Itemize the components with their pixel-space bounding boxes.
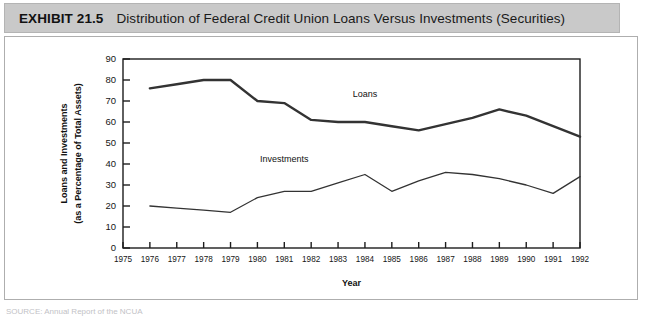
y-tick-label-20: 20 (105, 200, 116, 211)
x-tick-label-1979: 1979 (221, 255, 240, 264)
x-tick-label-1992: 1992 (571, 255, 590, 264)
series-label-investments: Investments (260, 154, 309, 164)
x-tick-label-1985: 1985 (383, 255, 402, 264)
y-axis-title-line1: Loans and Investments (59, 103, 69, 203)
x-tick-label-1981: 1981 (275, 255, 294, 264)
y-axis-title-line2: (as a Percentage of Total Assets) (73, 83, 83, 224)
x-tick-label-1991: 1991 (544, 255, 563, 264)
y-tick-label-0: 0 (111, 242, 116, 253)
x-tick-label-1988: 1988 (463, 255, 482, 264)
x-tick-label-1982: 1982 (302, 255, 321, 264)
x-tick-label-1977: 1977 (168, 255, 187, 264)
series-line-investments (150, 172, 580, 212)
y-tick-label-70: 70 (105, 95, 116, 106)
series-label-loans: Loans (353, 89, 378, 99)
y-tick-label-30: 30 (105, 179, 116, 190)
exhibit-number: EXHIBIT 21.5 (19, 11, 103, 26)
source-note: SOURCE: Annual Report of the NCUA (6, 308, 436, 316)
y-tick-label-80: 80 (105, 74, 116, 85)
exhibit-title: Distribution of Federal Credit Union Loa… (116, 11, 565, 26)
exhibit-header-bar: EXHIBIT 21.5 Distribution of Federal Cre… (4, 3, 620, 33)
y-tick-label-50: 50 (105, 137, 116, 148)
x-tick-label-1980: 1980 (248, 255, 267, 264)
x-tick-label-1989: 1989 (490, 255, 509, 264)
y-tick-label-40: 40 (105, 158, 116, 169)
x-tick-label-1975: 1975 (114, 255, 133, 264)
y-tick-label-60: 60 (105, 116, 116, 127)
x-tick-label-1990: 1990 (517, 255, 536, 264)
chart-frame: 0102030405060708090197519761977197819791… (4, 36, 638, 300)
y-tick-label-90: 90 (105, 53, 116, 64)
line-chart: 0102030405060708090197519761977197819791… (5, 37, 637, 299)
x-tick-label-1978: 1978 (195, 255, 214, 264)
x-tick-label-1983: 1983 (329, 255, 348, 264)
exhibit-figure: EXHIBIT 21.5 Distribution of Federal Cre… (0, 0, 645, 316)
x-tick-label-1984: 1984 (356, 255, 375, 264)
y-tick-label-10: 10 (105, 221, 116, 232)
x-tick-label-1986: 1986 (410, 255, 429, 264)
x-tick-label-1976: 1976 (141, 255, 160, 264)
x-tick-label-1987: 1987 (436, 255, 455, 264)
plot-border (123, 59, 580, 248)
x-axis-title: Year (342, 278, 362, 288)
